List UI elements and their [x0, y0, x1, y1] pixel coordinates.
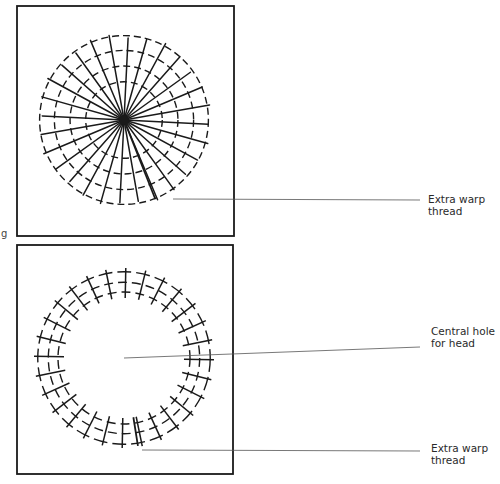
warp-spoke: [139, 271, 146, 300]
warp-spoke: [55, 300, 78, 319]
label-line: for head: [431, 337, 495, 349]
center-knot: [119, 115, 129, 125]
warp-spoke: [162, 289, 181, 312]
label-line: Extra warp: [428, 193, 485, 205]
warp-spoke: [41, 120, 124, 135]
warp-spoke: [69, 287, 87, 311]
central-hole-label: Central hole for head: [431, 325, 495, 349]
warp-spoke: [102, 416, 109, 445]
warp-ring-with-hole: [34, 268, 214, 448]
bottom-leader-line: [142, 450, 420, 451]
warp-spoke: [124, 105, 210, 120]
warp-spoke: [34, 356, 64, 357]
warp-spoke: [172, 303, 196, 321]
warp-spoke: [125, 268, 126, 298]
warp-spoke: [44, 317, 71, 331]
label-line: Central hole: [431, 325, 495, 337]
weft-ring: [48, 282, 199, 433]
warp-spoke: [124, 44, 166, 120]
warp-spoke: [122, 418, 123, 448]
weft-ring: [38, 272, 210, 444]
warp-spoke: [170, 396, 193, 415]
warp-spoke: [53, 394, 77, 412]
warp-spoke: [66, 404, 85, 427]
warp-spoke: [109, 36, 124, 120]
margin-character: g: [1, 228, 7, 239]
warp-spoke: [178, 385, 205, 399]
label-line: thread: [431, 454, 488, 466]
label-line: Extra warp: [431, 442, 488, 454]
warp-spoke: [124, 120, 198, 160]
warp-circle-full: [40, 36, 210, 205]
warp-spoke: [151, 278, 165, 305]
warp-spoke: [83, 412, 97, 439]
warp-spoke: [184, 359, 214, 360]
weaving-diagram: [0, 0, 500, 484]
bottom-extra-warp-label: Extra warp thread: [431, 442, 488, 466]
hole-leader-line: [124, 347, 420, 358]
top-extra-warp-label: Extra warp thread: [428, 193, 485, 217]
top-leader-line: [173, 199, 420, 200]
warp-spoke: [160, 406, 178, 430]
label-line: thread: [428, 205, 485, 217]
warp-spoke: [87, 276, 99, 303]
